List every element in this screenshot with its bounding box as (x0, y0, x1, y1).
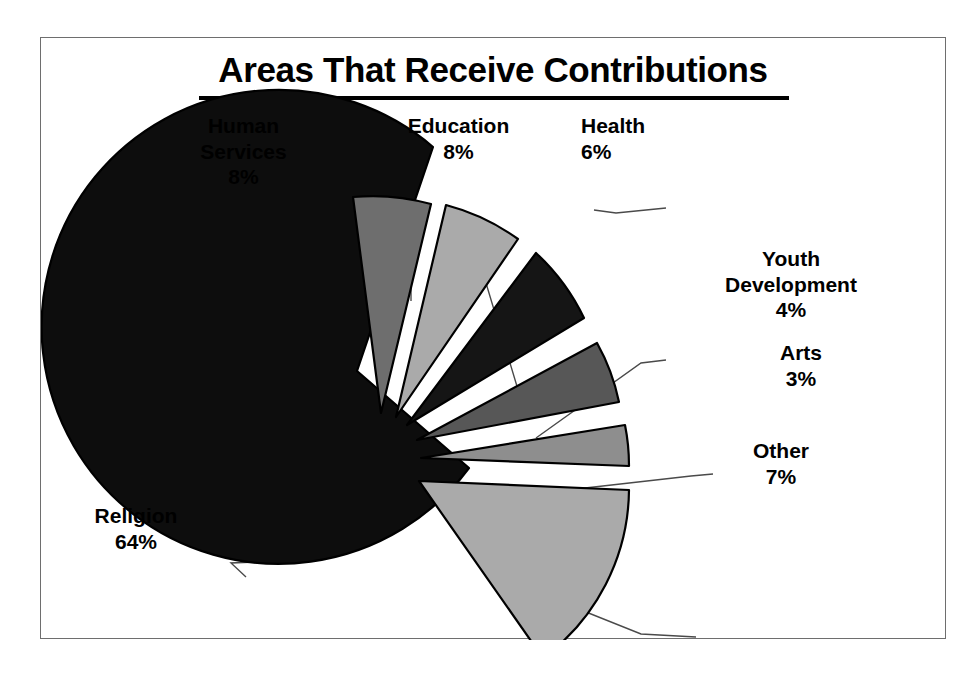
pie-label-human-services-line2: Services (151, 139, 336, 165)
pie-label-education-value: 8% (361, 139, 556, 165)
pie-label-health-line1: Health (581, 113, 716, 139)
pie-label-arts-value: 3% (721, 366, 881, 392)
pie-label-other-value: 7% (701, 464, 861, 490)
pie-label-human-services: Human Services 8% (151, 113, 336, 190)
pie-label-human-services-line1: Human (151, 113, 336, 139)
pie-label-health-value: 6% (581, 139, 716, 165)
pie-label-youth-development-line1: Youth (671, 246, 911, 272)
pie-label-arts-line1: Arts (721, 340, 881, 366)
leader-line-health-upper (594, 208, 666, 213)
pie-label-religion: Religion 64% (51, 503, 221, 554)
pie-label-education-line1: Education (361, 113, 556, 139)
pie-label-human-services-value: 8% (151, 164, 336, 190)
pie-label-arts: Arts 3% (721, 340, 881, 391)
pie-label-other-line1: Other (701, 438, 861, 464)
pie-label-youth-development: Youth Development 4% (671, 246, 911, 323)
pie-label-education: Education 8% (361, 113, 556, 164)
pie-label-religion-line1: Religion (51, 503, 221, 529)
pie-label-health: Health 6% (581, 113, 716, 164)
pie-label-other: Other 7% (701, 438, 861, 489)
chart-frame: Areas That Receive Contributions (40, 37, 946, 639)
pie-label-youth-development-line2: Development (671, 272, 911, 298)
leader-line-religion (231, 562, 256, 577)
pie-label-religion-value: 64% (51, 529, 221, 555)
pie-label-youth-development-value: 4% (671, 297, 911, 323)
